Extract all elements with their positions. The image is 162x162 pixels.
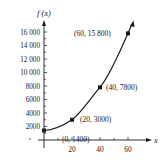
x-axis-label: x xyxy=(153,135,158,145)
curve-arrow-icon xyxy=(130,21,135,28)
y-tick-label: 4000 xyxy=(26,110,41,118)
y-tick-label: 16 000 xyxy=(20,29,40,37)
data-point xyxy=(98,85,102,89)
x-tick-labels: 20 40 60 xyxy=(68,145,132,154)
x-tick-label: 60 xyxy=(124,145,132,154)
data-point xyxy=(70,118,74,122)
point-label: (0, 1400) xyxy=(62,135,90,144)
y-tick-label: 14 000 xyxy=(20,42,40,50)
y-tick-label: 2000 xyxy=(26,123,41,131)
point-label: (60, 15 800) xyxy=(74,29,111,38)
x-axis-arrow-icon xyxy=(146,138,152,142)
y-axis-label: f (x) xyxy=(37,8,51,18)
x-tick-label: 20 xyxy=(68,145,76,154)
y-tick-label: 12 000 xyxy=(20,56,40,64)
y-tick-labels: 2000 4000 6000 8000 10 000 12 000 14 000… xyxy=(20,29,40,132)
y-tick-label: 8000 xyxy=(26,83,41,91)
y-axis-arrow-icon xyxy=(42,20,46,26)
point-label: (40, 7800) xyxy=(106,83,138,92)
function-plot: 2000 4000 6000 8000 10 000 12 000 14 000… xyxy=(0,0,162,162)
x-tick-label: 40 xyxy=(96,145,104,154)
point-label: (20, 3000) xyxy=(80,115,112,124)
y-tick-label: 10 000 xyxy=(20,69,40,77)
y-tick-label: 6000 xyxy=(26,96,41,104)
data-point xyxy=(126,31,130,35)
data-point xyxy=(42,129,46,133)
